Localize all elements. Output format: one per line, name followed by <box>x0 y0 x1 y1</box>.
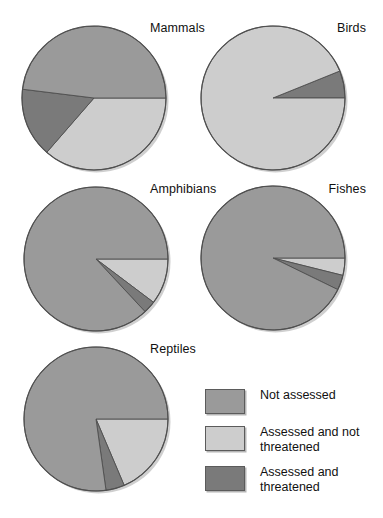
pie-fishes <box>201 186 348 333</box>
pie-title-reptiles: Reptiles <box>150 342 196 356</box>
legend-item-not-assessed: Not assessed <box>205 388 375 414</box>
pie-slice-not-assessed <box>23 26 166 98</box>
pie-slice-assessed-and-not-threatened <box>201 26 345 170</box>
pie-slice-not-assessed <box>201 186 345 330</box>
pie-reptiles <box>24 347 171 494</box>
pie-mammals <box>22 26 169 173</box>
legend-swatch-assessed-threatened <box>205 466 245 491</box>
pie-title-fishes: Fishes <box>329 182 366 196</box>
pie-title-mammals: Mammals <box>150 21 205 35</box>
legend-item-assessed-threatened: Assessed and threatened <box>205 465 375 494</box>
legend-swatch-not-assessed <box>205 389 245 414</box>
legend-label-not-assessed: Not assessed <box>260 388 336 403</box>
pie-amphibians <box>24 187 171 334</box>
pie-title-amphibians: Amphibians <box>150 182 216 196</box>
legend-swatch-assessed-not-threatened <box>205 426 245 451</box>
legend-label-assessed-not-threatened: Assessed and not threatened <box>260 425 375 454</box>
legend: Not assessed Assessed and not threatened… <box>205 388 375 505</box>
legend-item-assessed-not-threatened: Assessed and not threatened <box>205 425 375 454</box>
legend-label-assessed-threatened: Assessed and threatened <box>260 465 375 494</box>
pie-title-birds: Birds <box>337 21 366 35</box>
pie-birds <box>201 26 348 173</box>
pie-chart-figure: Mammals Birds Amphibians Fishes Reptiles… <box>0 0 383 518</box>
